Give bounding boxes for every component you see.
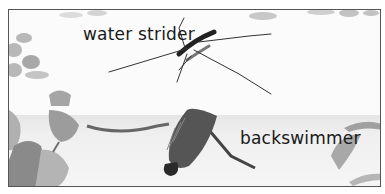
surface-leaf [22, 55, 40, 69]
strider-leg [194, 50, 271, 94]
plant-leaf [49, 110, 79, 142]
backswimmer-body [169, 109, 217, 168]
backswimmer-label: backswimmer [240, 128, 361, 148]
surface-leaf [9, 43, 22, 57]
backswimmer-head [164, 162, 178, 176]
backswimmer-leg [87, 124, 169, 131]
plant-stem [53, 142, 59, 152]
illustration-frame: water strider backswimmer [8, 9, 381, 187]
surface-leaf [249, 12, 277, 20]
surface-leaf [25, 71, 49, 79]
strider-shadow [187, 46, 209, 60]
surface-leaf [9, 63, 22, 77]
strider-leg [177, 54, 187, 82]
plant-leaf [349, 174, 381, 186]
surface-leaf [59, 12, 83, 18]
surface-leaf [307, 10, 335, 15]
surface-leaf [363, 10, 379, 16]
surface-leaf [49, 91, 71, 107]
surface-leaf [16, 33, 32, 43]
backswimmer-illustration [87, 109, 255, 176]
surface-leaf [87, 10, 107, 16]
illustration-svg [9, 10, 381, 187]
strider-leg [179, 56, 191, 70]
strider-leg [109, 48, 189, 72]
water-strider-label: water strider [83, 24, 195, 44]
surface-leaf [339, 10, 359, 17]
